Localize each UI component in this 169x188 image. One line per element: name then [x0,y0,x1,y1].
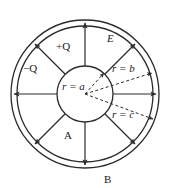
label-radius-a: r = a [62,80,85,92]
label-shell-charge: −Q [23,62,37,74]
label-region-a: A [64,129,72,141]
physics-diagram-figure: +Q −Q E r = a r = b r = c A B [0,0,169,188]
label-inner-charge: +Q [56,40,70,52]
label-radius-c: r = c [112,108,134,120]
label-field-E: E [106,32,114,44]
label-region-b: B [104,173,111,185]
diagram-canvas: +Q −Q E r = a r = b r = c A B [0,0,169,188]
label-radius-b: r = b [112,62,135,74]
field-arrow-downleft [35,114,65,144]
